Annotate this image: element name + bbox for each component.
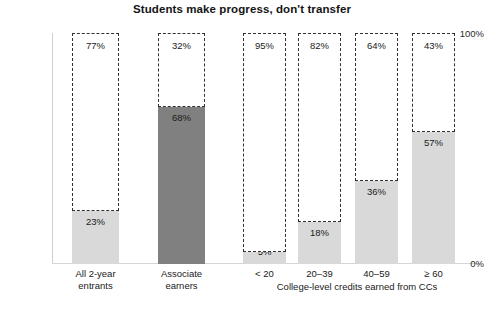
bar-top-value-credits-60-plus: 43%	[413, 41, 454, 51]
bar-segment-bottom-credits-60-plus: 57%	[412, 132, 455, 264]
bar-segment-top-credits-40-59: 64%	[355, 33, 398, 181]
bar-top-value-associate-earners: 32%	[159, 41, 204, 51]
bar-top-value-credits-20-39: 82%	[299, 41, 340, 51]
bar-all-2-year-entrants: 23%77%	[72, 33, 119, 264]
bar-credits-20-39: 18%82%	[298, 33, 341, 264]
bar-bottom-value-credits-40-59: 36%	[355, 187, 398, 197]
plot-area: 100% 0% 23%77%68%32%5%95%18%82%36%64%57%…	[0, 0, 484, 311]
bar-segment-top-all-2-year-entrants: 77%	[72, 33, 119, 211]
bar-segment-bottom-credits-40-59: 36%	[355, 181, 398, 264]
bar-bottom-value-credits-60-plus: 57%	[412, 138, 455, 148]
category-label-line2-associate-earners: earners	[144, 280, 219, 292]
bar-segment-bottom-credits-under-20: 5%	[243, 252, 286, 264]
group-axis-label: College-level credits earned from CCs	[232, 281, 482, 292]
bar-segment-top-associate-earners: 32%	[158, 33, 205, 107]
category-label-line2-all-2-year-entrants: entrants	[58, 280, 133, 292]
bar-bottom-value-associate-earners: 68%	[158, 113, 205, 123]
bar-bottom-value-credits-20-39: 18%	[298, 228, 341, 238]
category-label-line1-credits-60-plus: ≥ 60	[398, 268, 469, 280]
category-label-all-2-year-entrants: All 2-yearentrants	[58, 268, 133, 291]
category-label-credits-60-plus: ≥ 60	[398, 268, 469, 280]
category-label-line1-all-2-year-entrants: All 2-year	[58, 268, 133, 280]
bar-top-value-all-2-year-entrants: 77%	[73, 41, 118, 51]
bar-segment-bottom-all-2-year-entrants: 23%	[72, 211, 119, 264]
bar-top-value-credits-40-59: 64%	[356, 41, 397, 51]
bar-segment-top-credits-60-plus: 43%	[412, 33, 455, 132]
bar-bottom-value-all-2-year-entrants: 23%	[72, 217, 119, 227]
chart-container: Students make progress, don't transfer 1…	[0, 0, 484, 311]
category-label-associate-earners: Associateearners	[144, 268, 219, 291]
y-axis-line	[52, 33, 53, 264]
bar-segment-top-credits-20-39: 82%	[298, 33, 341, 222]
bar-credits-under-20: 5%95%	[243, 33, 286, 264]
category-label-line1-associate-earners: Associate	[144, 268, 219, 280]
bar-segment-top-credits-under-20: 95%	[243, 33, 286, 252]
bar-credits-60-plus: 57%43%	[412, 33, 455, 264]
bar-associate-earners: 68%32%	[158, 33, 205, 264]
bar-segment-bottom-associate-earners: 68%	[158, 107, 205, 264]
bar-segment-bottom-credits-20-39: 18%	[298, 222, 341, 264]
bar-credits-40-59: 36%64%	[355, 33, 398, 264]
bar-top-value-credits-under-20: 95%	[244, 41, 285, 51]
